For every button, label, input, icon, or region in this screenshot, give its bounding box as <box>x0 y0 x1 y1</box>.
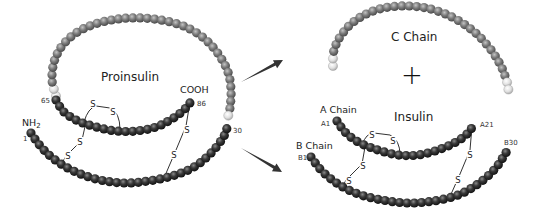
amino-acid-bead <box>222 124 231 133</box>
c-chain-label: C Chain <box>391 31 437 43</box>
nh2-terminus-label: NH2 <box>22 118 41 130</box>
disulfide-bond-pro-ab-1: SS <box>62 122 86 163</box>
amino-acid-bead <box>224 111 233 120</box>
sulfur-atom-label: S <box>467 150 472 160</box>
residue-30-label: 30 <box>233 128 242 135</box>
sulfur-atom-label: S <box>110 107 115 117</box>
plus-sign: + <box>401 62 423 88</box>
b1-label: B1 <box>298 155 307 162</box>
reaction-arrows <box>241 60 283 172</box>
amino-acid-bead <box>504 85 513 94</box>
sulfur-atom-label: S <box>90 99 95 109</box>
sulfur-atom-label: S <box>77 137 82 147</box>
a1-label: A1 <box>321 121 330 128</box>
residue-1-label: 1 <box>23 136 27 143</box>
sulfur-atom-label: S <box>455 175 460 185</box>
proinsulin-a-chain <box>51 95 194 136</box>
b-chain-label: B Chain <box>296 141 333 151</box>
insulin-label: Insulin <box>394 111 433 123</box>
sulfur-atom-label: S <box>184 125 189 135</box>
amino-acid-bead <box>502 148 511 157</box>
amino-acid-bead <box>185 98 194 107</box>
arrow-to-c-chain-icon <box>241 60 283 82</box>
arrow-to-insulin-icon <box>241 148 282 172</box>
a-chain-label: A Chain <box>320 105 357 115</box>
proinsulin-label: Proinsulin <box>101 71 159 83</box>
nh2-text: NH <box>22 117 36 128</box>
diagram-canvas: SSSSSSSSSSSS <box>0 0 533 216</box>
amino-acid-bead <box>467 124 476 133</box>
proinsulin-c-chain <box>47 13 235 120</box>
proinsulin-cleavage-diagram: SSSSSSSSSSSS Proinsulin COOH 86 65 NH2 1… <box>0 0 533 216</box>
nh2-subscript: 2 <box>36 122 40 130</box>
cooh-terminus-label: COOH <box>180 85 209 95</box>
sulfur-atom-label: S <box>346 176 351 186</box>
sulfur-atom-label: S <box>390 136 395 146</box>
amino-acid-chains <box>26 1 513 207</box>
residue-65-label: 65 <box>41 98 50 105</box>
sulfur-atom-label: S <box>171 150 176 160</box>
b30-label: B30 <box>504 140 518 147</box>
residue-86-label: 86 <box>197 101 206 108</box>
disulfide-bond-ins-ab-1: SS <box>342 147 367 188</box>
a21-label: A21 <box>480 122 494 129</box>
sulfur-atom-label: S <box>369 130 374 140</box>
sulfur-atom-label: S <box>360 161 365 171</box>
sulfur-atom-label: S <box>65 151 70 161</box>
